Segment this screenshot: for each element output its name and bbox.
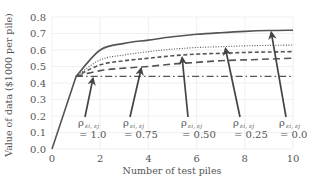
rho-value: = 0.25 (234, 129, 268, 140)
rho-symbol: ρ (181, 117, 187, 128)
rho-value: = 0.0 (280, 129, 307, 140)
x-tick-label: 10 (287, 153, 300, 164)
annotations: ρεi, εj= 1.0ρεi, εj= 0.75ρεi, εj= 0.50ρε… (78, 33, 307, 140)
y-tick-label: 0.4 (30, 78, 46, 89)
y-tick-label: 0.2 (30, 111, 46, 122)
y-axis-ticks: 0.00.10.20.30.40.50.60.70.8 (30, 12, 46, 155)
y-tick-label: 0.5 (30, 61, 46, 72)
rho-value: = 1.0 (79, 129, 106, 140)
x-tick-label: 8 (242, 153, 248, 164)
y-tick-label: 0.1 (30, 127, 46, 138)
y-tick-label: 0.0 (30, 144, 46, 155)
series-line (76, 52, 293, 77)
y-tick-label: 0.7 (30, 28, 46, 39)
x-tick-label: 2 (97, 153, 103, 164)
rho-symbol: ρ (279, 117, 285, 128)
line-chart: 0.00.10.20.30.40.50.60.70.8 0246810 ρεi,… (0, 0, 315, 190)
rho-symbol: ρ (78, 117, 84, 128)
x-tick-label: 0 (49, 153, 55, 164)
rho-value: = 0.75 (124, 129, 158, 140)
x-tick-label: 6 (193, 153, 199, 164)
x-axis-label: Number of test piles (123, 165, 222, 176)
rho-value: = 0.50 (182, 129, 216, 140)
y-tick-label: 0.8 (30, 12, 46, 23)
y-tick-label: 0.3 (30, 94, 46, 105)
y-tick-label: 0.6 (30, 45, 46, 56)
rho-symbol: ρ (233, 117, 239, 128)
x-tick-label: 4 (145, 153, 151, 164)
y-axis-label: Value of data ($1000 per pile) (3, 13, 14, 158)
rho-symbol: ρ (123, 117, 129, 128)
x-axis-ticks: 0246810 (49, 153, 300, 164)
